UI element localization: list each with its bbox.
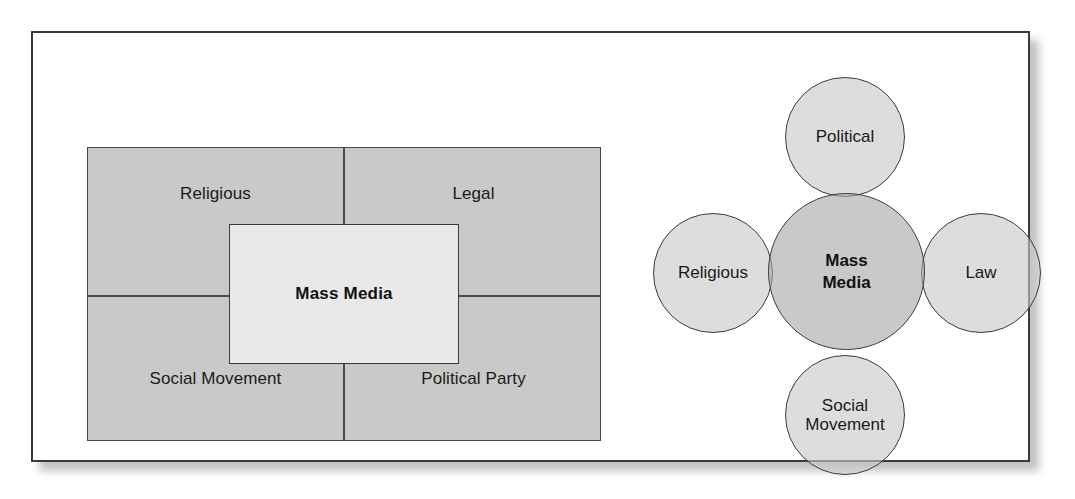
circle-religious: Religious: [653, 213, 773, 333]
circle-social-movement: Social Movement: [785, 355, 905, 475]
quadrant-center-box: Mass Media: [229, 224, 459, 364]
quadrant-label-social-movement: Social Movement: [88, 369, 343, 389]
circle-label-mass-media-line2: Media: [822, 273, 870, 292]
figure-frame: Religious Legal Social Movement Politica…: [31, 31, 1030, 462]
quadrant-diagram: Religious Legal Social Movement Politica…: [87, 147, 601, 441]
circle-political: Political: [785, 77, 905, 197]
quadrant-center-label: Mass Media: [295, 284, 392, 304]
quadrant-label-religious: Religious: [88, 184, 343, 204]
circle-label-mass-media-line1: Mass: [825, 251, 868, 270]
circle-label-social-movement-line1: Social: [822, 396, 868, 415]
circle-label-social-movement-line2: Movement: [805, 415, 884, 434]
circle-label-religious: Religious: [678, 263, 748, 282]
circle-label-political: Political: [816, 127, 875, 146]
circle-label-law: Law: [965, 263, 996, 282]
circle-label-social-movement: Social Movement: [805, 396, 884, 434]
figure-page: Religious Legal Social Movement Politica…: [0, 0, 1075, 499]
overlapping-circles-diagram: Political Religious Law Social Movement …: [633, 69, 1058, 489]
circle-mass-media: Mass Media: [768, 193, 925, 350]
circle-label-mass-media: Mass Media: [822, 250, 870, 294]
circle-law: Law: [921, 213, 1041, 333]
quadrant-label-political-party: Political Party: [345, 369, 602, 389]
quadrant-label-legal: Legal: [345, 184, 602, 204]
